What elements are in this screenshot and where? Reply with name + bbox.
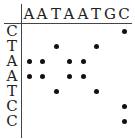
match-dot	[122, 119, 127, 124]
column-label: A	[76, 6, 90, 22]
match-dot	[94, 89, 99, 94]
column-label: A	[22, 6, 36, 22]
match-dot	[40, 74, 45, 79]
match-dot	[67, 59, 72, 64]
match-dot	[54, 44, 59, 49]
row-label: C	[5, 113, 19, 129]
match-dot	[81, 74, 86, 79]
match-dot	[122, 29, 127, 34]
match-dot	[81, 59, 86, 64]
match-dot	[122, 104, 127, 109]
column-label: A	[62, 6, 76, 22]
column-label: G	[103, 6, 117, 22]
match-dot	[27, 74, 32, 79]
match-dot	[54, 89, 59, 94]
column-label: T	[89, 6, 103, 22]
match-dot	[94, 44, 99, 49]
match-dot	[27, 59, 32, 64]
column-label: C	[117, 6, 131, 22]
horizontal-axis-line	[4, 23, 132, 24]
vertical-axis-line	[21, 4, 22, 138]
column-label: T	[49, 6, 63, 22]
match-dot	[40, 59, 45, 64]
column-label: A	[35, 6, 49, 22]
match-dot	[67, 74, 72, 79]
